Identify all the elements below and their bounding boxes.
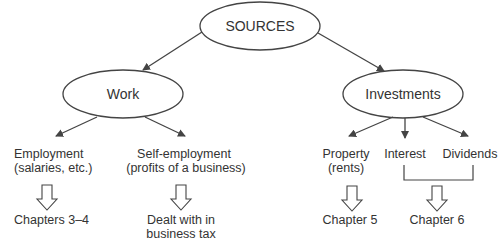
interest-label: Interest <box>384 147 426 161</box>
self-employment-sublabel: (profits of a business) <box>126 161 246 175</box>
hollow-down-arrow-icon <box>37 185 57 210</box>
self-employment-label: Self-employment <box>137 147 231 161</box>
outcome-employment: Chapters 3–4 <box>14 213 89 227</box>
node-sources: SOURCES <box>200 2 320 50</box>
outcome-self-employment-line1: Dealt with in <box>147 213 215 227</box>
income-sources-diagram: SOURCES Work Investments Employment (sal… <box>0 0 502 239</box>
arrow-work-employment <box>56 117 97 136</box>
interest-dividends-bracket <box>404 165 473 180</box>
investments-label: Investments <box>365 86 440 102</box>
hollow-down-arrow-icon <box>171 185 191 210</box>
work-label: Work <box>107 86 140 102</box>
property-sublabel: (rents) <box>328 161 364 175</box>
outcome-self-employment-line2: business tax <box>146 227 216 239</box>
outcome-property: Chapter 5 <box>323 213 378 227</box>
arrow-sources-investments <box>318 33 384 71</box>
employment-label: Employment <box>14 147 84 161</box>
property-label: Property <box>322 147 370 161</box>
arrow-investments-property <box>349 117 393 136</box>
arrow-work-self-employment <box>145 117 185 136</box>
arrow-investments-dividends <box>423 117 468 136</box>
sources-label: SOURCES <box>225 18 294 34</box>
node-work: Work <box>63 70 183 118</box>
arrow-sources-work <box>143 32 202 70</box>
dividends-label: Dividends <box>443 147 498 161</box>
employment-sublabel: (salaries, etc.) <box>14 161 93 175</box>
outcome-interest-dividends: Chapter 6 <box>410 213 465 227</box>
hollow-down-arrow-icon <box>427 186 447 211</box>
hollow-down-arrow-icon <box>342 186 362 211</box>
node-investments: Investments <box>343 70 463 118</box>
